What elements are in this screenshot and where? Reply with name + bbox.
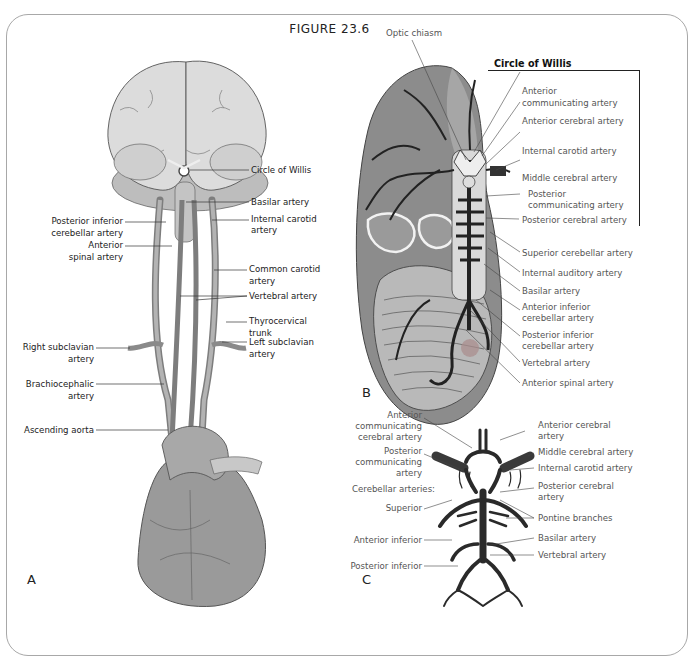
- label-c-ica: Internal carotid artery: [538, 463, 632, 473]
- label-circle-of-willis: Circle of Willis: [251, 165, 311, 175]
- label-b-pica-1: Posterior inferior: [522, 330, 594, 340]
- label-b-acomm-2: communicating artery: [522, 98, 617, 108]
- label-c-anterior-inferior: Anterior inferior: [354, 535, 422, 545]
- panel-letter-b: B: [362, 385, 371, 400]
- label-pica-1: Posterior inferior: [51, 216, 123, 226]
- label-b-aica-2: cerebellar artery: [522, 313, 594, 323]
- label-brachiocephalic-1: Brachiocephalic: [26, 379, 94, 389]
- label-left-subclavian-2: artery: [249, 349, 275, 359]
- label-b-iaa: Internal auditory artery: [522, 268, 622, 278]
- label-internal-carotid-1: Internal carotid: [251, 214, 317, 224]
- label-right-subclavian-1: Right subclavian: [23, 342, 94, 352]
- label-anterior-spinal-1: Anterior: [88, 240, 123, 250]
- label-common-carotid-2: artery: [249, 276, 275, 286]
- label-b-aca: Anterior cerebral artery: [522, 116, 624, 126]
- label-b-acomm-1: Anterior: [522, 86, 557, 96]
- label-anterior-spinal-2: spinal artery: [69, 252, 123, 262]
- label-c-acomm-3: cerebral artery: [358, 432, 422, 442]
- label-c-pontine: Pontine branches: [538, 513, 612, 523]
- label-c-aca-1: Anterior cerebral: [538, 420, 611, 430]
- label-b-aica-1: Anterior inferior: [522, 302, 590, 312]
- label-brachiocephalic-2: artery: [68, 391, 94, 401]
- label-thyrocervical-1: Thyrocervical: [249, 316, 307, 326]
- label-vertebral-artery: Vertebral artery: [249, 291, 317, 301]
- label-optic-chiasm: Optic chiasm: [386, 28, 442, 38]
- label-common-carotid-1: Common carotid: [249, 264, 320, 274]
- label-right-subclavian-2: artery: [68, 354, 94, 364]
- label-c-pca-2: artery: [538, 492, 564, 502]
- label-b-basilar: Basilar artery: [522, 286, 580, 296]
- label-c-superior: Superior: [386, 503, 422, 513]
- label-c-acomm-2: communicating: [355, 421, 422, 431]
- label-b-sca: Superior cerebellar artery: [522, 248, 633, 258]
- label-b-mca: Middle cerebral artery: [522, 173, 617, 183]
- label-b-pica-2: cerebellar artery: [522, 341, 594, 351]
- label-c-acomm-1: Anterior: [387, 410, 422, 420]
- label-ascending-aorta: Ascending aorta: [24, 425, 94, 435]
- label-left-subclavian-1: Left subclavian: [249, 337, 314, 347]
- label-c-pca-1: Posterior cerebral: [538, 481, 614, 491]
- circle-of-willis-box-title: Circle of Willis: [494, 58, 571, 69]
- label-b-pcomm-2: communicating artery: [528, 200, 623, 210]
- label-internal-carotid-2: artery: [251, 225, 277, 235]
- label-c-vertebral: Vertebral artery: [538, 550, 606, 560]
- label-c-pcomm-2: communicating: [355, 457, 422, 467]
- label-b-anterior-spinal: Anterior spinal artery: [522, 378, 614, 388]
- panel-a-illustration: [96, 61, 268, 606]
- panel-letter-a: A: [27, 572, 36, 587]
- label-c-pcomm-1: Posterior: [384, 446, 422, 456]
- label-c-cerebellar-arteries: Cerebellar arteries:: [352, 484, 435, 494]
- label-b-pca: Posterior cerebral artery: [522, 215, 627, 225]
- label-c-aca-2: artery: [538, 431, 564, 441]
- label-b-vertebral: Vertebral artery: [522, 358, 590, 368]
- label-basilar-artery: Basilar artery: [251, 197, 309, 207]
- label-c-basilar: Basilar artery: [538, 533, 596, 543]
- label-c-posterior-inferior: Posterior inferior: [350, 561, 422, 571]
- panel-letter-c: C: [362, 572, 371, 587]
- label-b-pcomm-1: Posterior: [528, 189, 566, 199]
- label-pica-2: cerebellar artery: [51, 228, 123, 238]
- label-b-ica: Internal carotid artery: [522, 146, 616, 156]
- heart-shape: [138, 460, 266, 607]
- label-c-pcomm-3: artery: [396, 468, 422, 478]
- label-c-mca: Middle cerebral artery: [538, 447, 633, 457]
